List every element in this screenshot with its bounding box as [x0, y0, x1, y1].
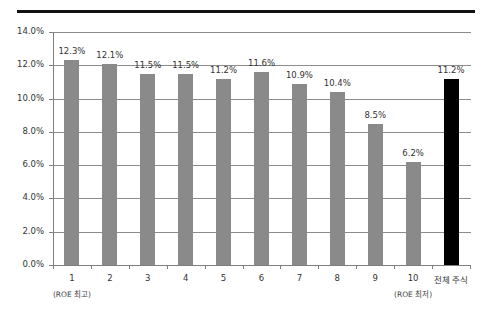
- data-label: 11.5%: [128, 60, 168, 70]
- x-axis-sublabel: (ROE 최고): [42, 288, 102, 299]
- x-axis-line: [53, 265, 470, 266]
- y-axis-label: 2.0%: [0, 226, 44, 236]
- bar-decile-5: [216, 79, 231, 265]
- chart-title-clipped: [17, 0, 317, 6]
- data-label: 11.5%: [166, 60, 206, 70]
- bar-decile-1: [64, 60, 79, 265]
- y-axis-label: 14.0%: [0, 26, 44, 36]
- x-tick: [394, 265, 395, 269]
- y-tick: [49, 132, 54, 133]
- x-tick: [243, 265, 244, 269]
- bar-all-stocks: [444, 79, 459, 265]
- bar-decile-4: [178, 74, 193, 265]
- bar-decile-3: [140, 74, 155, 265]
- data-label: 10.4%: [317, 78, 357, 88]
- x-tick: [470, 265, 471, 269]
- y-axis-label: 4.0%: [0, 192, 44, 202]
- y-axis-label: 12.0%: [0, 59, 44, 69]
- data-label: 11.6%: [242, 58, 282, 68]
- x-tick: [318, 265, 319, 269]
- y-tick: [49, 32, 54, 33]
- x-tick: [432, 265, 433, 269]
- bar-decile-8: [330, 92, 345, 265]
- bar-decile-7: [292, 84, 307, 265]
- y-tick: [49, 165, 54, 166]
- x-tick: [53, 265, 54, 269]
- bar-decile-2: [102, 64, 117, 265]
- data-label: 12.1%: [90, 50, 130, 60]
- data-label: 11.2%: [431, 65, 471, 75]
- x-tick: [167, 265, 168, 269]
- data-label: 6.2%: [393, 148, 433, 158]
- x-tick: [129, 265, 130, 269]
- y-tick: [49, 232, 54, 233]
- bar-decile-9: [368, 124, 383, 265]
- x-tick: [280, 265, 281, 269]
- x-tick: [205, 265, 206, 269]
- y-axis-label: 10.0%: [0, 93, 44, 103]
- y-axis-label: 8.0%: [0, 126, 44, 136]
- data-label: 11.2%: [204, 65, 244, 75]
- top-rule-divider: [17, 10, 475, 13]
- data-label: 12.3%: [52, 46, 92, 56]
- y-tick: [49, 198, 54, 199]
- y-tick: [49, 99, 54, 100]
- x-axis-sublabel: (ROE 최저): [383, 288, 443, 299]
- x-tick: [91, 265, 92, 269]
- data-label: 8.5%: [355, 110, 395, 120]
- data-label: 10.9%: [279, 70, 319, 80]
- y-axis-label: 6.0%: [0, 159, 44, 169]
- x-axis-label: 전체 주식: [429, 273, 473, 285]
- gridline: [54, 32, 471, 33]
- bar-decile-10: [406, 162, 421, 265]
- y-tick: [49, 65, 54, 66]
- bar-decile-6: [254, 72, 269, 265]
- x-tick: [356, 265, 357, 269]
- y-axis-label: 0.0%: [0, 259, 44, 269]
